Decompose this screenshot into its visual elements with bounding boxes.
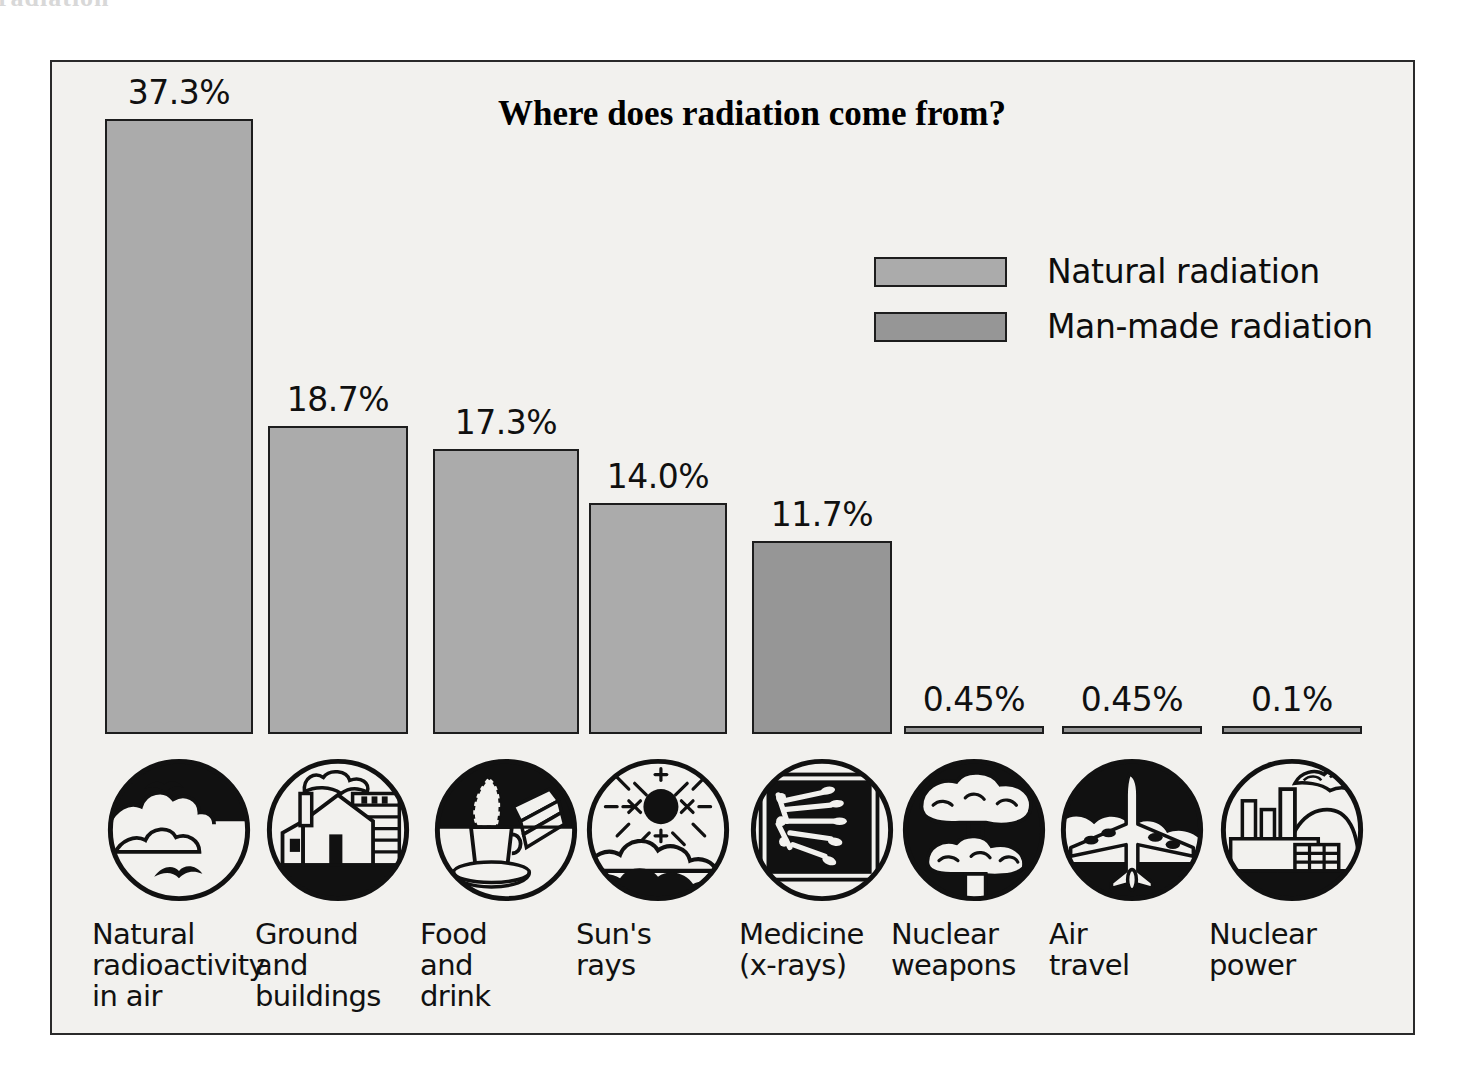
bar-2 — [268, 426, 408, 734]
bar-value-label-8: 0.1% — [1222, 680, 1362, 719]
sun-rays-clouds-icon — [585, 757, 731, 903]
category-label-line: travel — [1049, 950, 1130, 981]
category-label-7: Airtravel — [1049, 919, 1130, 981]
category-label-line: Food — [420, 919, 491, 950]
bar-8 — [1222, 726, 1362, 734]
category-label-6: Nuclearweapons — [891, 919, 1016, 981]
bar-value-label-4: 14.0% — [589, 457, 727, 496]
category-label-line: Medicine — [739, 919, 864, 950]
bar-5 — [752, 541, 892, 734]
category-label-line: (x-rays) — [739, 950, 864, 981]
category-label-line: Air — [1049, 919, 1130, 950]
bar-value-label-7: 0.45% — [1062, 680, 1202, 719]
xray-hand-icon — [749, 757, 895, 903]
category-label-line: power — [1209, 950, 1316, 981]
category-label-line: buildings — [255, 981, 381, 1012]
category-label-1: Naturalradioactivityin air — [92, 919, 265, 1012]
bar-value-label-6: 0.45% — [904, 680, 1044, 719]
category-label-line: radioactivity — [92, 950, 265, 981]
category-label-5: Medicine(x-rays) — [739, 919, 864, 981]
coffee-sandwich-icon — [433, 757, 579, 903]
airplane-icon — [1059, 757, 1205, 903]
category-label-line: Nuclear — [1209, 919, 1316, 950]
category-label-4: Sun'srays — [576, 919, 651, 981]
bar-3 — [433, 449, 579, 734]
bar-value-label-1: 37.3% — [105, 73, 253, 112]
clouds-birds-sky-icon — [106, 757, 252, 903]
category-label-line: Nuclear — [891, 919, 1016, 950]
scan-edge-artifact: radiation — [0, 0, 1461, 16]
category-label-line: drink — [420, 981, 491, 1012]
bar-value-label-3: 17.3% — [433, 403, 579, 442]
bar-7 — [1062, 726, 1202, 734]
bar-4 — [589, 503, 727, 734]
category-label-line: Sun's — [576, 919, 651, 950]
category-label-line: Ground — [255, 919, 381, 950]
category-label-8: Nuclearpower — [1209, 919, 1316, 981]
category-label-line: in air — [92, 981, 265, 1012]
bar-6 — [904, 726, 1044, 734]
bar-plot-area: 37.3% Naturalradioactivityin air18.7% Gr… — [52, 62, 1417, 1037]
bar-1 — [105, 119, 253, 734]
house-buildings-icon — [265, 757, 411, 903]
power-plant-icon — [1219, 757, 1365, 903]
category-label-line: rays — [576, 950, 651, 981]
category-label-line: weapons — [891, 950, 1016, 981]
category-label-line: and — [420, 950, 491, 981]
category-label-3: Foodanddrink — [420, 919, 491, 1012]
category-label-2: Groundandbuildings — [255, 919, 381, 1012]
bar-value-label-2: 18.7% — [268, 380, 408, 419]
category-label-line: Natural — [92, 919, 265, 950]
bar-value-label-5: 11.7% — [752, 495, 892, 534]
chart-frame: Where does radiation come from? Natural … — [50, 60, 1415, 1035]
mushroom-cloud-icon — [901, 757, 1047, 903]
category-label-line: and — [255, 950, 381, 981]
